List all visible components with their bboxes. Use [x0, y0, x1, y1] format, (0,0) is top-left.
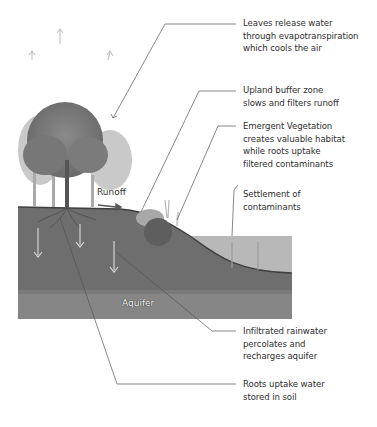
callout-infiltration: Infiltrated rainwater percolates and rec… [243, 325, 327, 363]
callout-settlement: Settlement of contaminants [243, 188, 301, 213]
aquifer-label: Aquifer [122, 298, 154, 308]
aquifer-layer [18, 290, 292, 319]
evaporation-arrows-icon [29, 29, 113, 60]
callout-emergent-vegetation: Emergent Vegetation creates valuable hab… [243, 120, 345, 170]
leader-lines [60, 24, 238, 384]
riparian-buffer-diagram [0, 0, 377, 427]
leader-settlement [232, 185, 238, 236]
leader-emergent-vegetation [177, 126, 236, 220]
callout-upland-buffer: Upland buffer zone slows and filters run… [243, 84, 339, 109]
callout-roots-uptake: Roots uptake water stored in soil [243, 378, 325, 403]
leader-evapotranspiration [113, 24, 236, 118]
runoff-label: Runoff [97, 187, 126, 197]
callout-evapotranspiration: Leaves release water through evapotransp… [243, 17, 358, 55]
